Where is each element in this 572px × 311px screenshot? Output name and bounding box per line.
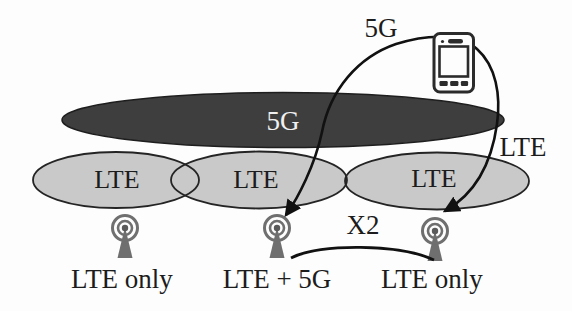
base-station-mode-label-right: LTE only xyxy=(381,266,483,293)
phone-camera-dot xyxy=(441,40,444,43)
lte-cell-label-left: LTE xyxy=(94,167,139,193)
lte-cell-label-middle: LTE xyxy=(233,167,278,193)
base-station-mode-label-left: LTE only xyxy=(71,266,173,293)
base-station-icon-left xyxy=(113,216,138,259)
phone-screen xyxy=(440,47,469,77)
x2-link-curve xyxy=(291,247,434,260)
lte-cell-label-right: LTE xyxy=(411,166,456,192)
diagram-canvas: 5G LTE LTE LTE 5G LTE X2 LTE only LTE + … xyxy=(0,0,572,311)
x2-interface-label: X2 xyxy=(347,212,380,239)
ue-5g-link-label: 5G xyxy=(365,15,398,42)
smartphone-icon xyxy=(434,34,474,93)
phone-buttons xyxy=(440,81,469,86)
nr-coverage-label: 5G xyxy=(267,108,300,135)
base-station-mode-label-middle: LTE + 5G xyxy=(223,266,332,293)
base-station-icon-middle xyxy=(265,216,290,259)
base-station-icon-right xyxy=(423,219,448,262)
ue-lte-link-label: LTE xyxy=(500,134,547,161)
phone-speaker-bar xyxy=(448,39,463,44)
